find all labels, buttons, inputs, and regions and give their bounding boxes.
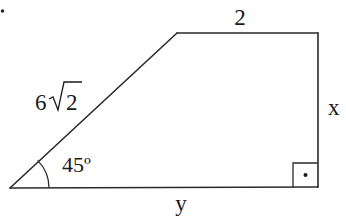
trapezoid-shape: [10, 33, 318, 188]
label-angle: 45º: [62, 152, 91, 177]
right-angle-dot: [304, 173, 308, 177]
slanted-coefficient: 6: [35, 90, 47, 115]
angle-arc-icon: [38, 160, 49, 187]
label-right-side: x: [328, 95, 340, 120]
label-top-side: 2: [234, 5, 246, 30]
label-slanted-side: 6 2: [35, 82, 82, 115]
stray-dot: [1, 9, 5, 13]
bottom-side: [10, 187, 318, 188]
slanted-radicand: 2: [66, 90, 78, 115]
trapezoid-diagram: 6 2 2 x y 45º: [0, 0, 346, 217]
label-bottom-side: y: [175, 191, 187, 216]
right-angle-marker: [293, 163, 318, 187]
